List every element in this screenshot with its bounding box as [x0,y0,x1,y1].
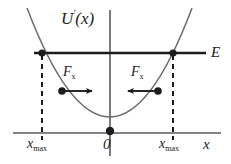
turning-point-right-label: xmax [159,137,179,151]
potential-curve-label-main: U [61,9,73,28]
turning-point-right-label-sub: max [165,144,179,153]
energy-level-label: E [211,45,220,60]
force-label-left-sub: x [72,72,76,81]
force-label-left: Fx [63,65,76,79]
origin-label: 0 [103,137,111,152]
turning-point-left-dot [38,49,45,56]
potential-energy-figure: U'(x) E Fx Fx 0 xmax xmax x [0,0,231,164]
force-label-left-main: F [63,64,72,79]
turning-point-left-label: xmax [27,137,47,151]
turning-point-right-dot [169,49,176,56]
potential-curve-label: U'(x) [61,10,94,27]
force-label-right: Fx [131,65,144,79]
origin-dot [106,127,114,135]
force-label-right-sub: x [140,72,144,81]
force-label-right-main: F [131,64,140,79]
turning-point-left-label-sub: max [33,144,47,153]
potential-curve-label-arg: (x) [75,9,94,28]
x-axis-label: x [203,137,210,152]
